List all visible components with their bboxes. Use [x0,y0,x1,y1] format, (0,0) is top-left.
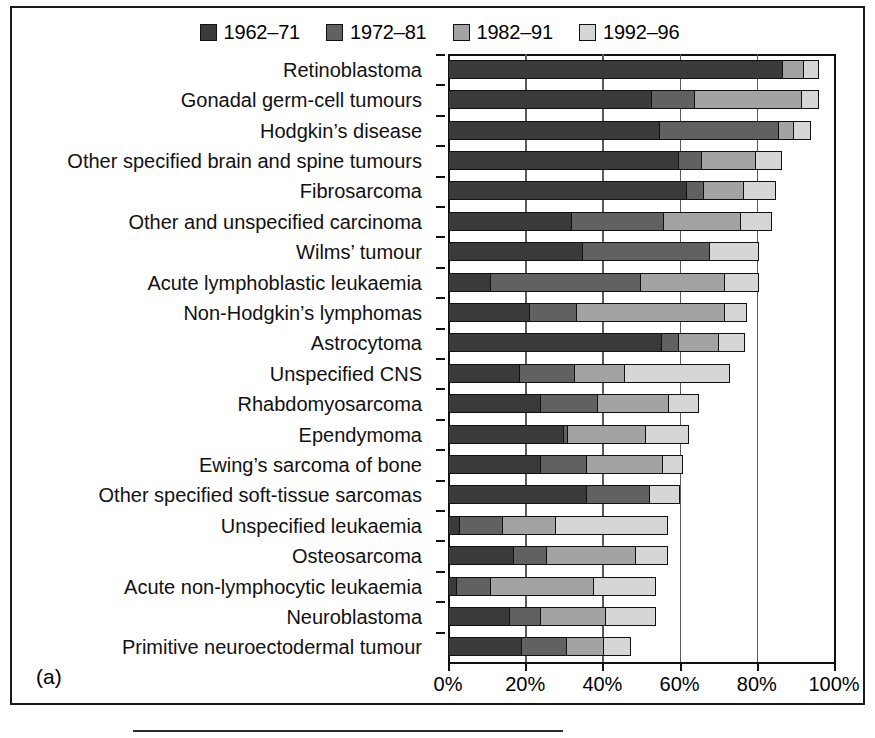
y-axis-tick [436,54,445,56]
figure-frame: 1962–71 1972–81 1982–91 1992–96 Retinobl… [10,6,865,705]
bar-segment [587,456,664,473]
y-axis-category-label: Acute lymphoblastic leukaemia [147,274,422,293]
x-axis-tick [757,662,759,671]
x-axis-tick [834,662,836,671]
bar-segment [679,152,702,169]
bar-segment [541,395,598,412]
stacked-bar [448,364,730,383]
bar-segment [556,517,667,534]
bar-segment [744,182,775,199]
x-axis-tick [525,662,527,671]
legend-item: 1962–71 [200,22,300,42]
legend-item: 1972–81 [326,22,426,42]
bar-segment [625,365,728,382]
y-axis-category-label: Rhabdomyosarcoma [237,395,422,414]
y-axis-tick [436,176,445,178]
stacked-bar [448,90,819,109]
bar-segment [606,608,656,625]
bar-segment [702,152,756,169]
bar-segment [460,517,502,534]
bar-segment [756,152,781,169]
y-axis-tick [436,358,445,360]
bar-segment [725,274,758,291]
bar-row [448,425,689,444]
bar-row [448,212,772,231]
bar-segment [687,182,704,199]
y-axis-category-label: Other specified brain and spine tumours [67,152,422,171]
bar-segment [491,578,594,595]
stacked-bar [448,273,759,292]
bar-segment [604,638,631,655]
bar-segment [725,304,746,321]
stacked-bar [448,181,776,200]
legend-swatch-icon [326,24,343,41]
y-axis-tick [436,449,445,451]
x-axis-tick [448,662,450,671]
bar-row [448,364,730,383]
bar-segment [520,365,576,382]
bar-segment [541,608,606,625]
legend-swatch-icon [453,24,470,41]
bar-segment [804,61,817,78]
y-axis-tick [436,480,445,482]
bar-segment [575,365,625,382]
gridline [757,54,759,662]
bar-segment [567,638,603,655]
y-axis-category-label: Hodgkin’s disease [260,122,422,141]
y-axis-tick [436,419,445,421]
y-axis-tick [436,267,445,269]
bar-segment [741,213,772,230]
bar-segment [650,486,679,503]
bar-segment [449,426,564,443]
y-axis-category-label: Gonadal germ-cell tumours [181,91,422,110]
bar-segment [449,61,783,78]
bar-segment [783,61,804,78]
legend-item: 1982–91 [453,22,553,42]
bar-segment [449,243,583,260]
y-axis-category-label: Ewing’s sarcoma of bone [199,456,422,475]
y-axis-category-label: Retinoblastoma [283,61,422,80]
bar-segment [449,486,587,503]
y-axis-category-label: Primitive neuroectodermal tumour [122,638,422,657]
bar-segment [503,517,557,534]
y-axis-tick [436,145,445,147]
y-axis-tick [436,115,445,117]
stacked-bar [448,425,689,444]
gridline [448,54,450,662]
y-axis-tick [436,601,445,603]
bar-segment [449,334,662,351]
y-axis-tick [436,540,445,542]
bar-segment [652,91,694,108]
bar-segment [522,638,568,655]
y-axis-tick [436,388,445,390]
y-axis-category-label: Non-Hodgkin’s lymphomas [183,304,422,323]
bar-segment [662,334,679,351]
y-axis-category-label: Fibrosarcoma [300,182,422,201]
stacked-bar [448,394,699,413]
bar-row [448,181,776,200]
bar-segment [547,547,637,564]
y-axis-category-label: Astrocytoma [311,334,422,353]
bar-row [448,546,668,565]
y-axis-category-label: Ependymoma [299,426,422,445]
bar-segment [587,486,650,503]
gridline [602,54,604,662]
y-axis-category-label: Other and unspecified carcinoma [129,213,423,232]
bar-row [448,455,683,474]
bar-segment [695,91,803,108]
bar-segment [660,122,779,139]
x-axis-tick-label: 80% [737,673,777,695]
y-axis-category-label: Unspecified CNS [270,365,422,384]
bar-row [448,516,668,535]
stacked-bar [448,516,668,535]
gridline [834,54,836,662]
y-axis-category-label: Neuroblastoma [286,608,422,627]
stacked-bar [448,333,745,352]
bar-row [448,485,680,504]
x-axis-tick-label: 20% [505,673,545,695]
bar-row [448,60,819,79]
bar-segment [449,578,457,595]
y-axis-category-label: Other specified soft-tissue sarcomas [99,486,422,505]
bar-segment [449,304,530,321]
bar-segment [449,456,541,473]
